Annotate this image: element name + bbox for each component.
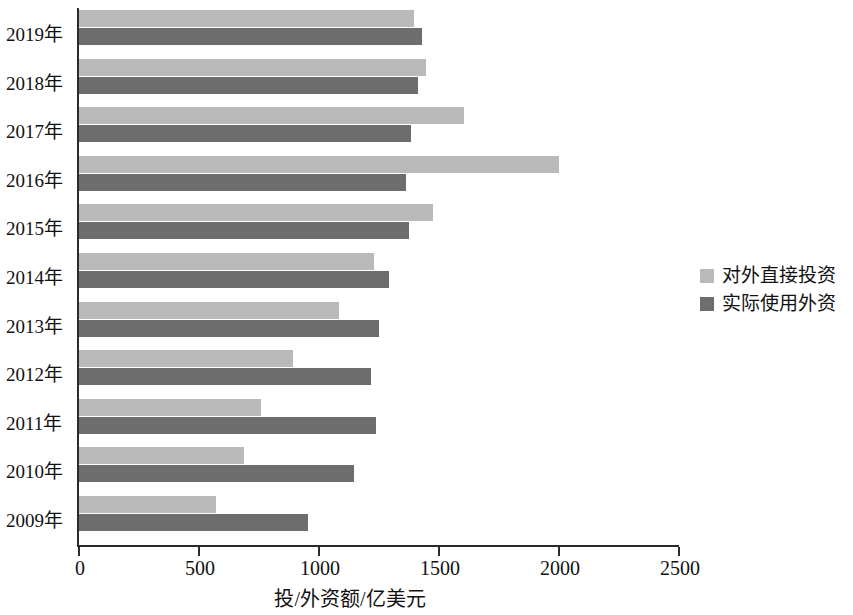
bar-2013年-实际使用外资	[79, 320, 379, 337]
x-tick-label-1000: 1000	[275, 556, 365, 580]
bar-2019年-实际使用外资	[79, 28, 422, 45]
y-axis-label-2010年: 2010年	[6, 461, 72, 483]
y-axis-label-2013年: 2013年	[6, 316, 72, 338]
x-tick-2000	[558, 547, 560, 556]
x-tick-label-1500: 1500	[395, 556, 485, 580]
bar-2014年-对外直接投资	[79, 253, 374, 270]
bar-2017年-对外直接投资	[79, 107, 464, 124]
y-axis-label-2018年: 2018年	[6, 73, 72, 95]
bar-2009年-对外直接投资	[79, 496, 216, 513]
bar-2019年-对外直接投资	[79, 10, 414, 27]
y-axis-label-2015年: 2015年	[6, 218, 72, 240]
legend-swatch-icon	[700, 297, 714, 311]
x-tick-0	[78, 547, 80, 556]
legend-label: 实际使用外资	[722, 293, 836, 315]
x-tick-2500	[678, 547, 680, 556]
y-axis-label-2017年: 2017年	[6, 121, 72, 143]
legend-label: 对外直接投资	[722, 265, 836, 287]
bar-2013年-对外直接投资	[79, 302, 339, 319]
y-axis-label-2012年: 2012年	[6, 364, 72, 386]
x-tick-label-2500: 2500	[635, 556, 725, 580]
x-tick-label-2000: 2000	[515, 556, 605, 580]
x-tick-500	[198, 547, 200, 556]
bar-2010年-对外直接投资	[79, 447, 244, 464]
bar-chart: 2019年2018年2017年2016年2015年2014年2013年2012年…	[0, 0, 853, 615]
x-tick-1500	[438, 547, 440, 556]
bar-2016年-实际使用外资	[79, 174, 406, 191]
x-tick-1000	[318, 547, 320, 556]
bar-2011年-实际使用外资	[79, 417, 376, 434]
x-tick-label-500: 500	[155, 556, 245, 580]
x-axis-line	[77, 545, 679, 547]
bar-2015年-对外直接投资	[79, 204, 433, 221]
y-axis-label-2016年: 2016年	[6, 170, 72, 192]
chart-legend: 对外直接投资 实际使用外资	[700, 262, 850, 318]
bar-2018年-实际使用外资	[79, 77, 418, 94]
bar-2015年-实际使用外资	[79, 222, 409, 239]
y-axis-label-2014年: 2014年	[6, 267, 72, 289]
legend-item-1: 实际使用外资	[700, 290, 850, 318]
bar-2014年-实际使用外资	[79, 271, 389, 288]
bar-2016年-对外直接投资	[79, 156, 559, 173]
bar-2012年-对外直接投资	[79, 350, 293, 367]
bar-2017年-实际使用外资	[79, 125, 411, 142]
bar-2011年-对外直接投资	[79, 399, 261, 416]
legend-item-0: 对外直接投资	[700, 262, 850, 290]
x-axis-title: 投/外资额/亿美元	[0, 586, 700, 612]
y-axis-label-2019年: 2019年	[6, 24, 72, 46]
y-axis-label-2011年: 2011年	[6, 413, 72, 435]
bar-2010年-实际使用外资	[79, 465, 354, 482]
bar-2009年-实际使用外资	[79, 514, 308, 531]
legend-swatch-icon	[700, 269, 714, 283]
bar-2012年-实际使用外资	[79, 368, 371, 385]
x-tick-label-0: 0	[35, 556, 125, 580]
bar-2018年-对外直接投资	[79, 59, 426, 76]
y-axis-label-2009年: 2009年	[6, 510, 72, 532]
